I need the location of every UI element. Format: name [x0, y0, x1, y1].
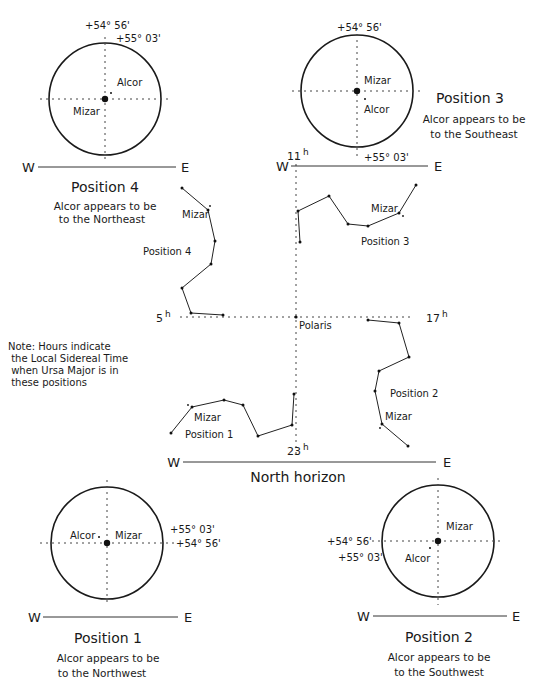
star-icon: [214, 240, 217, 243]
view-position-1: MizarAlcor+55° 03'+54° 56'WEPosition 1Al…: [28, 480, 221, 679]
star-icon: [367, 225, 370, 228]
mizar-label: Mizar: [194, 412, 222, 423]
alcor-direction-text: to the Southeast: [430, 128, 517, 140]
alcor-star-icon: [429, 547, 431, 549]
star-icon: [415, 184, 418, 187]
mizar-label: Mizar: [371, 203, 399, 214]
mizar-label: Mizar: [182, 209, 210, 220]
alcor-direction-text: Alcor appears to be: [54, 200, 157, 212]
constellation-position-3: MizarPosition 3: [297, 184, 418, 248]
star-icon: [381, 423, 384, 426]
position-title: Position 2: [405, 629, 473, 645]
declination-label: +55° 03': [170, 524, 215, 535]
declination-label: +55° 03': [116, 33, 161, 44]
hour-number: 23: [287, 445, 301, 458]
position-label: Position 2: [390, 388, 438, 399]
position-title: Position 4: [71, 179, 139, 195]
star-icon: [374, 390, 377, 393]
star-icon: [407, 445, 410, 448]
alcor-label: Alcor: [70, 530, 96, 541]
hour-superscript: h: [442, 309, 448, 319]
mizar-label: Mizar: [115, 530, 143, 541]
star-icon: [367, 319, 370, 322]
hour-label-17h: 17h: [426, 309, 448, 325]
west-label: W: [357, 609, 370, 624]
declination-label: +55° 03': [338, 552, 383, 563]
alcor-direction-text: Alcor appears to be: [423, 113, 526, 125]
hour-label-5h: 5h: [156, 309, 171, 325]
star-icon: [347, 223, 350, 226]
view-position-3: MizarAlcor+54° 56'+55° 03'WEPosition 3Al…: [276, 22, 525, 174]
hour-number: 5: [156, 312, 163, 325]
alcor-star-icon: [98, 536, 100, 538]
horizon-east-label: E: [443, 455, 451, 470]
declination-label: +54° 56': [327, 536, 372, 547]
star-icon: [190, 312, 193, 315]
alcor-direction-text: Alcor appears to be: [388, 651, 491, 663]
mizar-star-icon: [435, 538, 441, 544]
star-icon: [297, 210, 300, 213]
star-icon: [408, 356, 411, 359]
alcor-star-icon: [402, 215, 404, 217]
star-icon: [299, 241, 302, 244]
hour-superscript: h: [303, 442, 309, 452]
east-label: E: [181, 160, 189, 175]
horizon-title: North horizon: [250, 469, 345, 485]
east-label: E: [434, 159, 442, 174]
star-icon: [222, 314, 225, 317]
position-label: Position 1: [185, 429, 233, 440]
position-title: Position 1: [74, 630, 142, 646]
polaris-label: Polaris: [299, 320, 332, 331]
polaris-star-icon: [294, 315, 297, 318]
mizar-label: Mizar: [446, 521, 474, 532]
alcor-label: Alcor: [405, 553, 431, 564]
alcor-star-icon: [379, 427, 381, 429]
star-icon: [210, 263, 213, 266]
hour-label-11h: 11h: [287, 147, 309, 163]
position-label: Position 3: [361, 236, 409, 247]
note-line: when Ursa Major is in: [8, 365, 119, 376]
hour-superscript: h: [165, 309, 171, 319]
mizar-star-icon: [102, 96, 108, 102]
constellation-position-1: MizarPosition 1: [170, 393, 296, 441]
star-icon: [181, 287, 184, 290]
alcor-star-icon: [110, 92, 112, 94]
alcor-direction-text: to the Northeast: [59, 213, 145, 225]
star-icon: [170, 432, 173, 435]
note-line: the Local Sidereal Time: [8, 353, 128, 364]
alcor-direction-text: Alcor appears to be: [57, 652, 160, 664]
alcor-direction-text: to the Southwest: [394, 666, 484, 678]
mizar-label: Mizar: [385, 411, 413, 422]
ursa-major-positions: MizarPosition 1MizarPosition 2MizarPosit…: [143, 184, 438, 448]
alcor-star-icon: [209, 205, 211, 207]
mizar-label: Mizar: [364, 75, 392, 86]
mizar-star-icon: [104, 540, 110, 546]
hour-superscript: h: [303, 147, 309, 157]
star-icon: [293, 393, 296, 396]
star-icon: [181, 187, 184, 190]
position-title: Position 3: [436, 90, 504, 106]
note-line: Note: Hours indicate: [8, 341, 111, 352]
alcor-star-icon: [187, 404, 189, 406]
star-icon: [398, 322, 401, 325]
hour-label-23h: 23h: [287, 442, 309, 458]
east-label: E: [512, 609, 520, 624]
view-position-2: MizarAlcor+54° 56'+55° 03'WEPosition 2Al…: [327, 478, 520, 678]
mizar-label: Mizar: [73, 106, 101, 117]
star-icon: [291, 424, 294, 427]
note-line: these positions: [8, 377, 87, 388]
west-label: W: [276, 159, 289, 174]
sidereal-time-note: Note: Hours indicate the Local Sidereal …: [8, 341, 128, 388]
position-label: Position 4: [143, 246, 191, 257]
mizar-star-icon: [354, 88, 360, 94]
star-icon: [223, 399, 226, 402]
alcor-label: Alcor: [364, 104, 390, 115]
horizon-west-label: W: [167, 455, 180, 470]
star-icon: [398, 212, 401, 215]
west-label: W: [22, 160, 35, 175]
star-icon: [328, 195, 331, 198]
constellation-position-2: MizarPosition 2: [367, 319, 439, 448]
east-label: E: [184, 610, 192, 625]
star-icon: [378, 370, 381, 373]
north-horizon: W E North horizon: [167, 455, 451, 485]
